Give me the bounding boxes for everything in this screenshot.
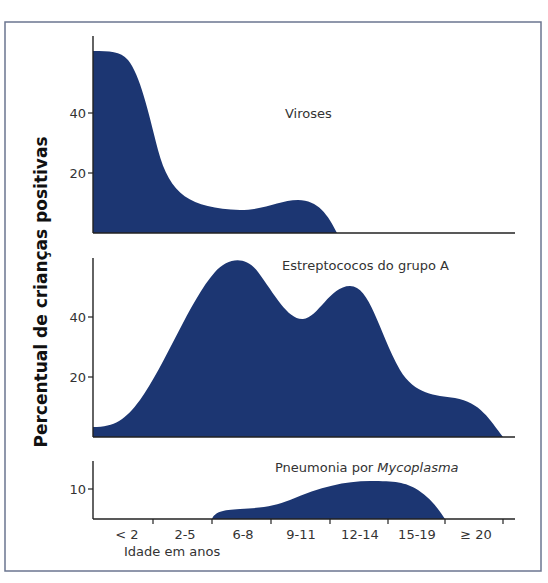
- estreptococos-ytick-label-20: 20: [69, 370, 86, 385]
- xtick-label-lt2: < 2: [115, 527, 138, 542]
- mycoplasma-label-prefix: Pneumonia por: [275, 460, 377, 475]
- mycoplasma-label: Pneumonia por Mycoplasma: [275, 460, 459, 475]
- mycoplasma-area: [212, 481, 445, 519]
- xtick-label-6-8: 6-8: [232, 527, 253, 542]
- estreptococos-label: Estreptococos do grupo A: [282, 258, 449, 273]
- estreptococos-area: [93, 260, 503, 437]
- mycoplasma-label-italic: Mycoplasma: [377, 460, 458, 475]
- xtick-label-ge20: ≥ 20: [460, 527, 492, 542]
- xtick-label-12-14: 12-14: [341, 527, 379, 542]
- panel-estreptococos: 40 20 Estreptococos do grupo A: [69, 258, 515, 437]
- viroses-ytick-label-40: 40: [69, 106, 86, 121]
- xtick-label-15-19: 15-19: [398, 527, 436, 542]
- estreptococos-ytick-label-40: 40: [69, 310, 86, 325]
- viroses-area: [93, 51, 337, 233]
- viroses-label: Viroses: [285, 106, 332, 121]
- chart: Percentual de crianças positivas 40 20 V…: [0, 0, 548, 583]
- viroses-ytick-label-20: 20: [69, 166, 86, 181]
- x-axis-label: Idade em anos: [124, 544, 220, 559]
- panel-mycoplasma: 10 Pneumonia por Mycoplasma < 2 2-5 6-8 …: [69, 460, 515, 559]
- panel-viroses: 40 20 Viroses: [69, 36, 515, 233]
- xtick-label-9-11: 9-11: [286, 527, 316, 542]
- xtick-label-2-5: 2-5: [174, 527, 195, 542]
- y-axis-label: Percentual de crianças positivas: [31, 136, 51, 447]
- mycoplasma-ytick-label-10: 10: [69, 482, 86, 497]
